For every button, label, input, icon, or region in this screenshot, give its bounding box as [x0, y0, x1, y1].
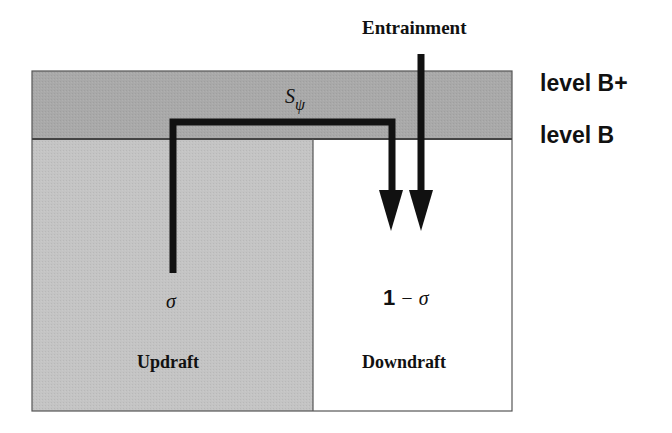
flux-subscript: ψ — [295, 96, 305, 113]
flux-symbol: S — [285, 85, 295, 107]
downdraft-fraction: 1 − σ — [383, 285, 429, 311]
level-b-label: level B — [540, 122, 614, 149]
diagram-canvas — [0, 0, 672, 433]
level-b-plus-label: level B+ — [540, 70, 628, 97]
downdraft-fraction-rest: − σ — [395, 287, 428, 309]
downdraft-label: Downdraft — [362, 352, 446, 373]
downdraft-fraction-one: 1 — [383, 285, 395, 310]
flux-label: Sψ — [285, 85, 305, 112]
updraft-label: Updraft — [137, 352, 199, 373]
updraft-fraction: σ — [166, 290, 176, 313]
entrainment-label: Entrainment — [362, 17, 467, 39]
entrainment-layer — [32, 71, 512, 139]
